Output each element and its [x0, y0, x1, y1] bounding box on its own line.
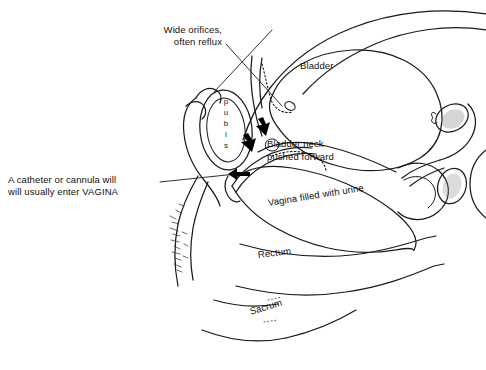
pubic-hair-stipple	[170, 204, 188, 272]
pubis-letter-i: i	[225, 129, 227, 140]
annotation-bladder-neck: Bladder neckpushed forward	[267, 138, 363, 163]
sacral-segment-line-2	[264, 320, 278, 322]
vagina-outline-upper	[236, 166, 416, 250]
annotation-catheter: A catheter or cannula willwill usually e…	[8, 174, 160, 198]
labial-contour-inner	[191, 182, 208, 280]
clitoral-hood-curve	[186, 102, 206, 120]
pubis-letter-b: b	[224, 118, 228, 129]
mons-upper-fold	[196, 88, 221, 103]
leader-line-wide-orifices	[226, 44, 282, 106]
annotation-bladder-neck-line1: Bladder neck	[267, 138, 324, 149]
annotation-wide-orifices-line1: Wide orifices,	[164, 24, 222, 35]
annotation-catheter-line2: will usually enter VAGINA	[8, 186, 118, 197]
structure-label-bladder: Bladder	[300, 60, 333, 72]
leader-line-catheter	[160, 174, 236, 182]
pubis-letter-s: s	[224, 140, 228, 151]
pubis-letter-u: u	[224, 107, 228, 118]
structure-label-pubis: p u b i s	[219, 96, 233, 151]
right-ovary-fill	[438, 105, 468, 132]
annotation-bladder-neck-line2: pushed forward	[267, 151, 334, 162]
ureteric-orifice-opening	[283, 100, 296, 112]
coccyx-curve	[286, 310, 356, 338]
annotation-wide-orifices: Wide orifices,often reflux	[112, 24, 222, 48]
labial-contour-outer	[175, 176, 198, 286]
uterine-tube-loop	[398, 163, 448, 219]
ureter-right-lower	[402, 160, 440, 178]
rectum-posterior-wall	[236, 264, 444, 295]
right-lateral-wall	[470, 150, 486, 218]
annotation-wide-orifices-line2: often reflux	[174, 36, 222, 47]
arrow-bladder-neck-upper	[256, 117, 270, 136]
arrow-bladder-neck-lower	[241, 133, 256, 152]
leader-line-crossing	[214, 30, 272, 92]
annotation-catheter-line1: A catheter or cannula will	[8, 174, 116, 185]
pubis-letter-p: p	[224, 96, 228, 107]
anterior-body-wall	[184, 98, 221, 206]
uterine-tube-inner	[404, 177, 435, 208]
diagram-canvas: Wide orifices,often reflux A catheter or…	[0, 0, 486, 370]
sacrum-posterior-border	[202, 330, 286, 341]
